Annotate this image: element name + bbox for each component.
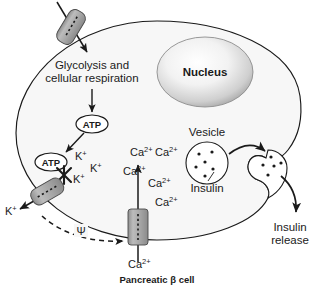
vesicle-free (186, 142, 228, 184)
glycolysis-line2: cellular respiration (45, 72, 138, 84)
insulin-release-line1: Insulin (273, 221, 306, 233)
atp-lower-label: ATP (42, 157, 61, 168)
vesicle-free-membrane (186, 142, 228, 184)
membrane-potential-label: Ψ (76, 225, 85, 237)
atp-upper: ATP (76, 115, 108, 133)
atp-upper-label: ATP (83, 119, 102, 130)
nucleus: Nucleus (157, 37, 253, 107)
glycolysis-label: Glycolysis and cellular respiration (45, 59, 138, 84)
glycolysis-line1: Glycolysis and (55, 59, 129, 71)
figure-caption: Pancreatic β cell (120, 274, 195, 285)
insulin-release-line2: release (271, 234, 309, 246)
vesicle-label: Vesicle (189, 126, 225, 138)
atp-lower: ATP (35, 153, 67, 171)
potassium-ion-outside: K+ (5, 204, 17, 218)
nucleus-label: Nucleus (183, 66, 228, 78)
insulin-release-label: Insulin release (271, 221, 309, 246)
calcium-ion-outside: Ca2+ (128, 257, 151, 271)
calcium-channel (128, 209, 148, 245)
insulin-label: Insulin (190, 182, 223, 194)
beta-cell-diagram: Nucleus Glycolysis and cellular respirat… (0, 0, 314, 285)
figure-container: Nucleus Glycolysis and cellular respirat… (0, 0, 314, 285)
